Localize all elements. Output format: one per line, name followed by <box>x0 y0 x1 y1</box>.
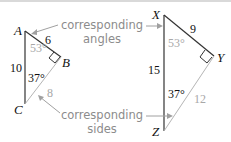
callout-angles-line1: corresponding <box>61 18 143 32</box>
arrowhead-icon <box>157 23 163 29</box>
side-xy-length: 9 <box>190 22 196 36</box>
triangle-abc: A B C 6 10 8 53° 37° <box>10 23 70 117</box>
vertex-b-label: B <box>62 55 70 70</box>
side-yz-length: 12 <box>194 92 206 106</box>
callout-angles-line2: angles <box>83 32 121 46</box>
callout-sides-line1: corresponding <box>61 108 143 122</box>
angle-c-measure: 37° <box>28 71 45 85</box>
vertex-c-label: C <box>14 102 23 117</box>
side-ac-length: 10 <box>10 61 22 75</box>
side-xz-length: 15 <box>148 63 160 77</box>
similar-triangles-diagram: A B C 6 10 8 53° 37° X Y Z 9 15 12 53° 3… <box>0 0 231 142</box>
side-bc-length: 8 <box>47 86 53 100</box>
angle-z-measure: 37° <box>168 87 185 101</box>
vertex-y-label: Y <box>217 50 226 65</box>
vertex-x-label: X <box>151 7 161 22</box>
vertex-a-label: A <box>13 23 22 38</box>
callout-sides-line2: sides <box>87 122 117 136</box>
right-angle-mark-b <box>49 52 60 63</box>
angle-a-measure: 53° <box>30 41 47 55</box>
angle-x-measure: 53° <box>168 36 185 50</box>
arrowhead-icon <box>31 29 37 35</box>
vertex-z-label: Z <box>152 124 160 139</box>
